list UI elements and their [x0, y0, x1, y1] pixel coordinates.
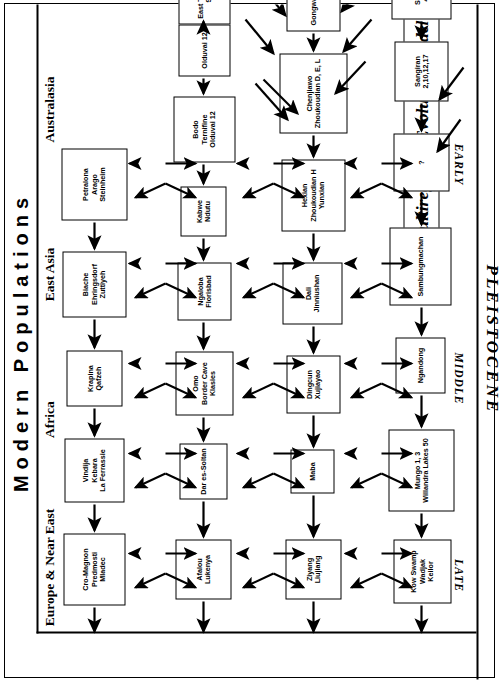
figure-page: Modern Populations Europe & Near East Af…: [0, 0, 501, 683]
diagram-canvas: Modern Populations Europe & Near East Af…: [5, 4, 493, 679]
figure-frame: Modern Populations Europe & Near East Af…: [4, 3, 495, 678]
rotated-diagram-wrapper: Modern Populations Europe & Near East Af…: [5, 4, 493, 679]
lineage-arrows: [5, 4, 493, 679]
